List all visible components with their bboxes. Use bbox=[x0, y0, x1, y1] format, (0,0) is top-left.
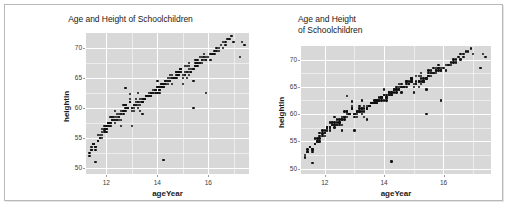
data-point bbox=[133, 110, 136, 113]
x-tick-mark bbox=[384, 175, 385, 177]
data-point bbox=[346, 116, 349, 119]
data-point bbox=[437, 67, 440, 70]
grid-major-horizontal bbox=[86, 168, 249, 169]
data-point bbox=[150, 95, 153, 98]
data-point bbox=[156, 80, 159, 83]
data-point bbox=[390, 160, 393, 163]
data-point bbox=[171, 83, 174, 86]
data-point bbox=[154, 92, 157, 95]
data-point bbox=[179, 71, 182, 74]
data-point bbox=[218, 50, 221, 53]
plot-left: Age and Height of Schoolchildren heightI… bbox=[5, 5, 256, 202]
data-point bbox=[94, 161, 97, 164]
data-point bbox=[341, 118, 344, 121]
plot-panel-left bbox=[86, 33, 249, 174]
data-point bbox=[338, 124, 341, 127]
data-point bbox=[90, 146, 93, 149]
plot-right: Age and Height of Schoolchildren heightI… bbox=[256, 5, 504, 202]
data-point bbox=[447, 64, 450, 67]
y-tick-mark bbox=[298, 114, 300, 115]
data-point bbox=[314, 143, 317, 146]
data-point bbox=[120, 119, 123, 122]
x-axis-title-left: ageYear bbox=[152, 189, 183, 198]
data-point bbox=[194, 65, 197, 68]
grid-minor-horizontal bbox=[86, 63, 249, 64]
data-point bbox=[425, 88, 428, 91]
data-point bbox=[124, 104, 127, 107]
grid-minor-horizontal bbox=[86, 153, 249, 154]
data-point bbox=[192, 68, 195, 71]
grid-major-horizontal bbox=[86, 108, 249, 109]
plot-title-left: Age and Height of Schoolchildren bbox=[5, 14, 256, 25]
data-point bbox=[139, 104, 142, 107]
x-tick-mark bbox=[444, 175, 445, 177]
data-point bbox=[92, 143, 95, 146]
data-point bbox=[380, 99, 383, 102]
data-point bbox=[88, 155, 91, 158]
data-point bbox=[363, 110, 366, 113]
data-point bbox=[122, 113, 125, 116]
data-point bbox=[114, 110, 117, 113]
data-point bbox=[196, 59, 199, 62]
grid-major-horizontal bbox=[301, 114, 491, 115]
data-point bbox=[445, 69, 448, 72]
data-point bbox=[135, 98, 138, 101]
data-point bbox=[94, 149, 97, 152]
x-tick-label: 12 bbox=[103, 179, 110, 186]
grid-minor-horizontal bbox=[301, 155, 491, 156]
grid-major-horizontal bbox=[301, 60, 491, 61]
y-tick-label: 60 bbox=[283, 110, 297, 117]
data-point bbox=[346, 95, 349, 98]
plot-title-right: Age and Height of Schoolchildren bbox=[298, 14, 362, 36]
data-point bbox=[224, 44, 227, 47]
data-point bbox=[90, 149, 93, 152]
x-axis-title-right: ageYear bbox=[381, 189, 412, 198]
data-point bbox=[311, 162, 314, 165]
data-point bbox=[341, 129, 344, 132]
data-point bbox=[430, 75, 433, 78]
grid-minor-horizontal bbox=[301, 73, 491, 74]
data-point bbox=[338, 121, 341, 124]
data-point bbox=[368, 105, 371, 108]
data-point bbox=[184, 74, 187, 77]
y-tick-mark bbox=[298, 141, 300, 142]
data-point bbox=[366, 118, 369, 121]
data-point bbox=[156, 86, 159, 89]
y-tick-mark bbox=[83, 138, 85, 139]
x-tick-label: 14 bbox=[381, 179, 388, 186]
y-tick-mark bbox=[298, 87, 300, 88]
y-tick-label: 55 bbox=[283, 137, 297, 144]
grid-major-vertical bbox=[325, 46, 326, 174]
grid-minor-vertical bbox=[354, 46, 355, 174]
y-tick-label: 60 bbox=[68, 104, 82, 111]
data-point bbox=[400, 83, 403, 86]
data-point bbox=[415, 83, 418, 86]
data-point bbox=[353, 129, 356, 132]
data-point bbox=[437, 64, 440, 67]
data-point bbox=[484, 56, 487, 59]
y-tick-mark bbox=[298, 169, 300, 170]
grid-minor-horizontal bbox=[86, 93, 249, 94]
grid-major-horizontal bbox=[86, 48, 249, 49]
data-point bbox=[333, 126, 336, 129]
data-point bbox=[192, 107, 195, 110]
y-tick-label: 65 bbox=[283, 83, 297, 90]
data-point bbox=[203, 53, 206, 56]
y-tick-label: 55 bbox=[68, 134, 82, 141]
data-point bbox=[109, 125, 112, 128]
data-point bbox=[94, 146, 97, 149]
x-tick-mark bbox=[157, 175, 158, 177]
grid-minor-vertical bbox=[183, 33, 184, 174]
data-point bbox=[351, 107, 354, 110]
data-point bbox=[192, 80, 195, 83]
grid-minor-horizontal bbox=[301, 100, 491, 101]
data-point bbox=[459, 58, 462, 61]
data-point bbox=[385, 99, 388, 102]
data-point bbox=[440, 69, 443, 72]
data-point bbox=[366, 107, 369, 110]
grid-major-horizontal bbox=[301, 169, 491, 170]
data-point bbox=[455, 61, 458, 64]
data-point bbox=[343, 118, 346, 121]
data-point bbox=[158, 92, 161, 95]
data-point bbox=[129, 98, 132, 101]
